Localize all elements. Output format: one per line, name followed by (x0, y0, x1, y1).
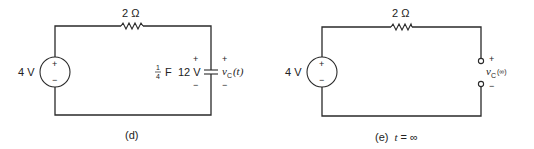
capacitance-label: 1 4 F (155, 64, 172, 80)
caption-d: (d) (125, 129, 138, 141)
resistor-icon (391, 24, 412, 30)
circuit-figure: 2 Ω + − 4 V 1 4 F + 12 V − + vC(t) − (d) (0, 0, 534, 149)
circuit-d: 2 Ω + − 4 V 1 4 F + 12 V − + vC(t) − (d) (18, 7, 244, 141)
output-minus: − (222, 80, 227, 90)
wire-right-bottom (322, 87, 481, 116)
wire-top-right (412, 27, 481, 58)
source-plus: + (52, 59, 57, 69)
caption-e: (e)t = ∞ (375, 131, 418, 143)
source-label: 4 V (18, 66, 35, 78)
capacitance-numerator: 1 (156, 64, 160, 71)
resistor-label: 2 Ω (392, 7, 409, 19)
output-plus: + (489, 54, 494, 64)
output-arg: (t) (233, 65, 244, 78)
output-plus: + (222, 54, 227, 64)
wire-top-right (143, 26, 211, 70)
caption-suffix: = ∞ (398, 131, 418, 143)
output-label: vC(∞) (486, 65, 507, 79)
caption-prefix: (e) (375, 131, 388, 143)
output-arg: (∞) (497, 68, 507, 76)
output-sub: C (491, 72, 496, 79)
cap-initial-voltage: 12 V (178, 66, 201, 78)
output-label: vC(t) (222, 65, 244, 79)
capacitance-unit: F (165, 66, 172, 78)
source-label: 4 V (285, 66, 302, 78)
open-terminal-bottom-icon (478, 81, 483, 86)
resistor-icon (121, 23, 143, 29)
resistor-label: 2 Ω (122, 7, 139, 19)
open-terminal-top-icon (478, 58, 483, 63)
circuit-diagrams-svg: 2 Ω + − 4 V 1 4 F + 12 V − + vC(t) − (d) (0, 0, 534, 149)
source-minus: − (52, 75, 57, 85)
wire-left-top (322, 27, 391, 57)
output-sub: C (227, 72, 232, 79)
output-minus: − (489, 81, 494, 91)
cap-voltage-plus: + (193, 54, 198, 64)
source-minus: − (319, 75, 324, 85)
cap-voltage-minus: − (193, 80, 198, 90)
wire-left-top (55, 26, 121, 57)
wire-right-bottom (55, 74, 211, 115)
circuit-e: 2 Ω + − 4 V + vC(∞) − (e)t = ∞ (285, 7, 507, 143)
capacitance-denominator: 4 (156, 73, 160, 80)
source-plus: + (319, 59, 324, 69)
